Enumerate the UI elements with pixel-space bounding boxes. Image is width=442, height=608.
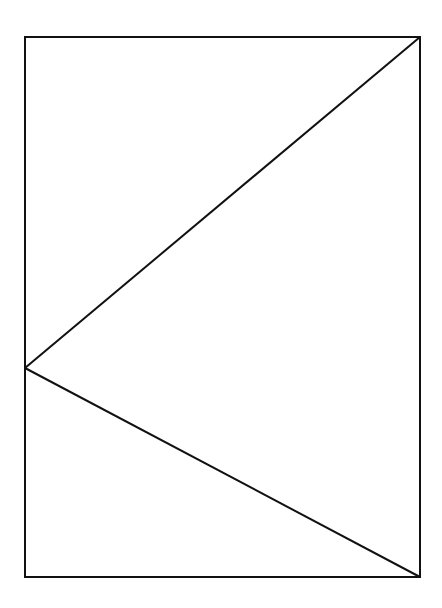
outer-rectangle (25, 37, 420, 577)
upper-diagonal-line (25, 37, 420, 368)
lower-diagonal-line (25, 368, 420, 577)
geometry-diagram (0, 0, 442, 608)
